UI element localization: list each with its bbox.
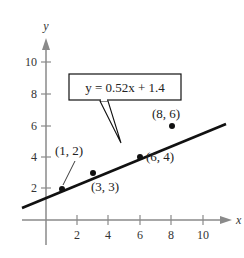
y-tick-label: 2 bbox=[31, 181, 37, 195]
x-tick-label: 10 bbox=[197, 228, 209, 242]
y-tick-label: 6 bbox=[31, 119, 37, 133]
x-tick-label: 4 bbox=[105, 228, 111, 242]
point-label: (8, 6) bbox=[152, 106, 180, 121]
chart-svg: 2 4 6 8 10 2 4 6 8 10 y x (1, 2) (3, 3) … bbox=[0, 0, 244, 258]
y-tick-label: 4 bbox=[31, 150, 37, 164]
data-point bbox=[59, 186, 65, 192]
x-axis-arrow-icon bbox=[220, 216, 232, 224]
y-axis-arrow-icon bbox=[42, 38, 50, 50]
y-axis-label: y bbox=[42, 19, 49, 33]
x-tick-label: 8 bbox=[168, 228, 174, 242]
x-tick-label: 2 bbox=[74, 228, 80, 242]
x-axis-label: x bbox=[235, 213, 242, 227]
point-label: (3, 3) bbox=[91, 179, 119, 194]
y-tick-label: 8 bbox=[31, 87, 37, 101]
point-label: (1, 2) bbox=[55, 143, 83, 158]
point-label: (6, 4) bbox=[146, 149, 174, 164]
y-tick-label: 10 bbox=[25, 55, 37, 69]
x-tick-label: 6 bbox=[137, 228, 143, 242]
data-point bbox=[90, 170, 96, 176]
data-point bbox=[169, 123, 175, 129]
regression-line bbox=[22, 124, 226, 208]
callout-pointer bbox=[100, 101, 121, 143]
equation-text: y = 0.52x + 1.4 bbox=[85, 80, 165, 95]
data-point bbox=[137, 154, 143, 160]
label-leader-line bbox=[63, 161, 75, 185]
